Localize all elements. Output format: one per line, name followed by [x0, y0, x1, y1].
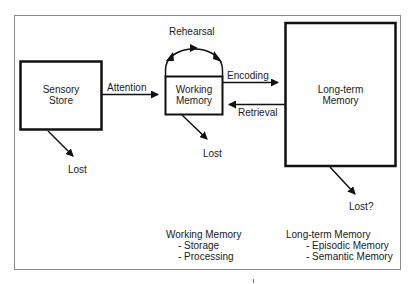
working-memory-label: Working Memory: [165, 84, 223, 106]
long-term-memory-notes: Long-term Memory - Episodic Memory - Sem…: [286, 229, 393, 262]
working-memory-label-line1: Working: [165, 84, 223, 95]
long-term-memory-note-item: - Episodic Memory: [286, 240, 393, 251]
sensory-store-label: Sensory Store: [20, 84, 102, 106]
rehearsal-arrowhead-left: [166, 52, 174, 61]
working-lost-label: Lost: [203, 148, 222, 159]
rehearsal-arrowhead-top: [190, 44, 198, 52]
long-term-memory-note-item: - Semantic Memory: [286, 251, 393, 262]
long-term-memory-label-line2: Memory: [285, 95, 396, 106]
sensory-lost-arrow: [48, 131, 73, 156]
attention-label: Attention: [107, 82, 146, 93]
long-term-memory-notes-title: Long-term Memory: [286, 229, 393, 240]
sensory-store-label-line1: Sensory: [20, 84, 102, 95]
sensory-store-label-line2: Store: [20, 95, 102, 106]
long-term-lost-arrow: [330, 167, 355, 194]
working-memory-note-item: - Storage: [166, 240, 241, 251]
rehearsal-label: Rehearsal: [169, 26, 215, 37]
retrieval-label: Retrieval: [238, 107, 277, 118]
long-term-memory-label: Long-term Memory: [285, 84, 396, 106]
working-memory-notes: Working Memory - Storage - Processing: [166, 229, 241, 262]
working-memory-note-item: - Processing: [166, 251, 241, 262]
sensory-lost-label: Lost: [68, 164, 87, 175]
rehearsal-arrowhead-right: [213, 51, 222, 62]
working-memory-notes-title: Working Memory: [166, 229, 241, 240]
working-memory-label-line2: Memory: [165, 95, 223, 106]
encoding-label: Encoding: [227, 70, 269, 81]
working-lost-arrow: [182, 115, 207, 139]
long-term-memory-label-line1: Long-term: [285, 84, 396, 95]
scan-artifact-mark: [253, 279, 254, 283]
long-term-lost-label: Lost?: [349, 201, 373, 212]
